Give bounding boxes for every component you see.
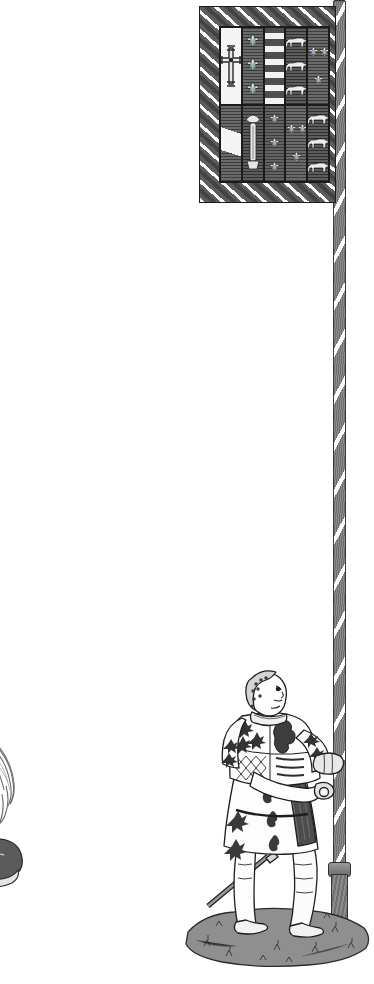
banner-panel-row1-col1 — [220, 27, 242, 105]
cropped-companion-figure — [0, 742, 40, 892]
lion-group — [286, 28, 306, 104]
banner-panel-row1-col5: ⚜ ⚜ ⚜ — [307, 27, 329, 105]
lion-passant-icon — [307, 137, 329, 149]
fleur-de-lis-icon: ⚜ — [269, 113, 280, 125]
lion-passant-icon — [307, 161, 329, 173]
fleur-de-lis-icon: ⚜ — [297, 123, 307, 135]
fleur-de-lis-icon: ⚜ — [308, 46, 319, 58]
fleur-de-lis-icon: ⚜ — [269, 137, 280, 149]
fleur-de-lis-icon: ⚜ — [291, 151, 302, 163]
fleur-group: ⚜ ⚜ ⚜ — [243, 28, 263, 104]
heraldic-banner: ⚜ ⚜ ⚜ — [199, 6, 336, 203]
fleur-group: ⚜ ⚜ ⚜ — [308, 28, 328, 104]
lion-group — [308, 106, 328, 182]
fleur-group: ⚜ ⚜ ⚜ — [265, 106, 285, 182]
bend-charge — [221, 106, 241, 182]
banner-panel-row2-col4: ⚜ ⚜ ⚜ — [285, 105, 307, 183]
banner-panel-row1-col4 — [285, 27, 307, 105]
herald-figure — [196, 668, 356, 940]
banner-panel-row2-col1 — [220, 105, 242, 183]
fleur-group: ⚜ ⚜ ⚜ — [286, 106, 306, 182]
fleur-de-lis-icon: ⚜ — [246, 82, 259, 97]
fleur-de-lis-icon: ⚜ — [286, 123, 297, 135]
fleur-de-lis-icon: ⚜ — [319, 46, 329, 58]
banner-panel-row1-col3 — [264, 27, 286, 105]
engraving-plate: ⚜ ⚜ ⚜ — [0, 0, 374, 984]
pillar-icon — [242, 114, 264, 172]
lion-passant-icon — [307, 113, 329, 125]
banner-panel-row1-col2: ⚜ ⚜ ⚜ — [242, 27, 264, 105]
lion-passant-icon — [285, 36, 307, 48]
fleur-de-lis-icon: ⚜ — [246, 34, 259, 49]
fleur-de-lis-icon: ⚜ — [246, 58, 259, 73]
cross-potent-glyph — [220, 44, 242, 88]
fleur-row: ⚜ ⚜ — [308, 46, 328, 58]
fleur-row: ⚜ ⚜ — [286, 123, 306, 135]
fleur-de-lis-icon: ⚜ — [269, 161, 280, 173]
lion-passant-icon — [285, 84, 307, 96]
banner-panel-row2-col2 — [242, 105, 264, 183]
fleur-de-lis-icon: ⚜ — [313, 74, 324, 86]
banner-field: ⚜ ⚜ ⚜ — [219, 26, 330, 183]
cross-potent-icon — [221, 28, 241, 104]
banner-panel-row2-col5 — [307, 105, 329, 183]
lion-passant-icon — [285, 60, 307, 72]
banner-panel-row2-col3: ⚜ ⚜ ⚜ — [264, 105, 286, 183]
pillar-group — [243, 106, 263, 182]
